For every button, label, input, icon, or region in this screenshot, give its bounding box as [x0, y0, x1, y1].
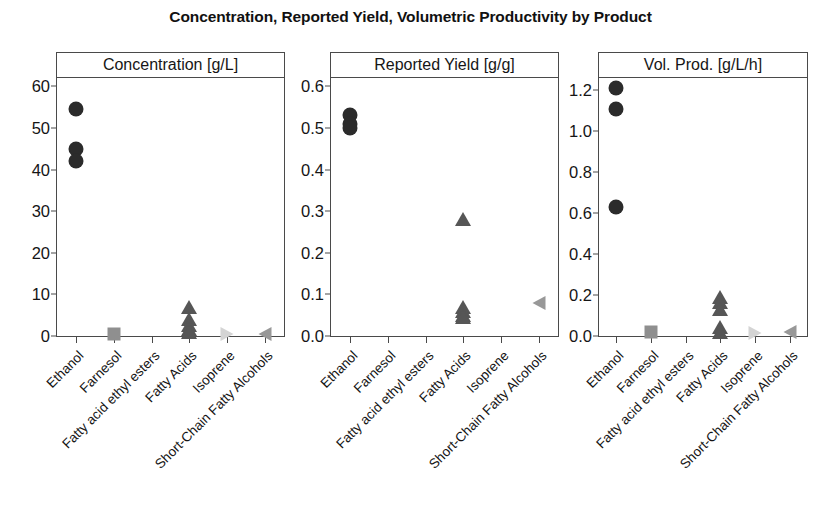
- y-tick-mark: [593, 90, 599, 91]
- y-tick-label: 10: [32, 285, 50, 304]
- panel-concentration: Concentration [g/L]0102030405060EthanolF…: [56, 52, 285, 337]
- y-tick-mark: [325, 127, 331, 128]
- page-title: Concentration, Reported Yield, Volumetri…: [0, 8, 821, 26]
- y-tick-mark: [325, 336, 331, 337]
- y-tick-mark: [51, 169, 57, 170]
- y-tick-label: 0.8: [569, 163, 592, 182]
- y-tick-mark: [593, 172, 599, 173]
- data-point-triangle-left: [783, 325, 796, 339]
- data-point-square: [645, 325, 658, 338]
- y-tick-label: 0.0: [301, 327, 324, 346]
- y-tick-mark: [325, 252, 331, 253]
- y-tick-label: 0.4: [569, 245, 592, 264]
- x-tick-mark: [616, 336, 617, 343]
- x-tick-mark: [686, 336, 687, 343]
- panel-strip-reported-yield: Reported Yield [g/g]: [330, 52, 559, 78]
- y-tick-mark: [51, 252, 57, 253]
- plot-inner: 0102030405060EthanolFarnesolFatty acid e…: [57, 78, 284, 336]
- data-point-circle: [342, 120, 357, 135]
- data-point-circle: [609, 101, 624, 116]
- y-tick-mark: [593, 213, 599, 214]
- y-tick-label: 0.3: [301, 202, 324, 221]
- y-tick-label: 40: [32, 160, 50, 179]
- data-point-triangle-up: [712, 325, 728, 339]
- x-tick-mark: [350, 336, 351, 343]
- data-point-square: [107, 327, 120, 340]
- panel-strip-label: Reported Yield [g/g]: [374, 56, 515, 74]
- y-tick-mark: [593, 131, 599, 132]
- data-point-triangle-left: [259, 327, 272, 341]
- y-tick-mark: [325, 86, 331, 87]
- y-tick-label: 0.2: [301, 243, 324, 262]
- y-tick-mark: [593, 295, 599, 296]
- y-tick-mark: [51, 211, 57, 212]
- x-tick-mark: [388, 336, 389, 343]
- data-point-triangle-up: [455, 212, 471, 226]
- panel-strip-concentration: Concentration [g/L]: [56, 52, 285, 78]
- data-point-triangle-up: [455, 310, 471, 324]
- y-tick-mark: [593, 336, 599, 337]
- data-point-triangle-up: [181, 325, 197, 339]
- plot-inner: 0.00.10.20.30.40.50.6EthanolFarnesolFatt…: [331, 78, 558, 336]
- y-tick-mark: [325, 294, 331, 295]
- y-tick-label: 0.6: [301, 77, 324, 96]
- y-tick-label: 0.4: [301, 160, 324, 179]
- x-tick-mark: [76, 336, 77, 343]
- y-tick-mark: [51, 294, 57, 295]
- x-tick-mark: [539, 336, 540, 343]
- y-tick-label: 30: [32, 202, 50, 221]
- data-point-circle: [609, 200, 624, 215]
- panel-reported-yield: Reported Yield [g/g]0.00.10.20.30.40.50.…: [330, 52, 559, 337]
- y-tick-label: 0.5: [301, 118, 324, 137]
- y-tick-label: 20: [32, 243, 50, 262]
- data-point-triangle-left: [533, 296, 546, 310]
- y-tick-label: 50: [32, 118, 50, 137]
- data-point-circle: [68, 154, 83, 169]
- y-tick-mark: [51, 127, 57, 128]
- plot-area-vol-prod: 0.00.20.40.60.81.01.2EthanolFarnesolFatt…: [598, 77, 808, 337]
- x-tick-mark: [152, 336, 153, 343]
- plot-inner: 0.00.20.40.60.81.01.2EthanolFarnesolFatt…: [599, 78, 807, 336]
- y-tick-mark: [51, 86, 57, 87]
- y-tick-label: 0.6: [569, 204, 592, 223]
- panel-vol-prod: Vol. Prod. [g/L/h]0.00.20.40.60.81.01.2E…: [598, 52, 808, 337]
- y-tick-mark: [325, 169, 331, 170]
- y-tick-mark: [51, 336, 57, 337]
- data-point-circle: [609, 81, 624, 96]
- y-tick-label: 0.2: [569, 286, 592, 305]
- panel-strip-vol-prod: Vol. Prod. [g/L/h]: [598, 52, 808, 78]
- y-tick-label: 0.0: [569, 327, 592, 346]
- x-tick-mark: [501, 336, 502, 343]
- y-tick-label: 1.2: [569, 81, 592, 100]
- data-point-circle: [68, 102, 83, 117]
- panel-strip-label: Vol. Prod. [g/L/h]: [644, 56, 762, 74]
- y-tick-label: 0: [41, 327, 50, 346]
- y-tick-label: 0.1: [301, 285, 324, 304]
- y-tick-mark: [325, 211, 331, 212]
- plot-area-reported-yield: 0.00.10.20.30.40.50.6EthanolFarnesolFatt…: [330, 77, 559, 337]
- x-tick-mark: [426, 336, 427, 343]
- data-point-triangle-up: [712, 302, 728, 316]
- y-tick-mark: [593, 254, 599, 255]
- y-tick-label: 60: [32, 77, 50, 96]
- y-tick-label: 1.0: [569, 122, 592, 141]
- panel-strip-label: Concentration [g/L]: [103, 56, 238, 74]
- figure-root: Concentration, Reported Yield, Volumetri…: [0, 0, 821, 513]
- x-tick-mark: [463, 336, 464, 343]
- data-point-triangle-right: [221, 327, 234, 341]
- data-point-triangle-right: [749, 326, 762, 340]
- plot-area-concentration: 0102030405060EthanolFarnesolFatty acid e…: [56, 77, 285, 337]
